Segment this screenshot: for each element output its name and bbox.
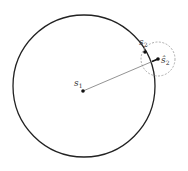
- label-s1: s1: [74, 78, 82, 89]
- point-s2hat: [156, 57, 160, 61]
- diagram-svg: s1s2ŝ2: [0, 0, 188, 171]
- segment-s1-s2hat: [83, 59, 158, 91]
- label-s2: s2: [139, 37, 148, 48]
- point-s2: [143, 50, 147, 54]
- main-circle: [13, 15, 155, 157]
- diagram-canvas: s1s2ŝ2: [0, 0, 188, 171]
- point-s1: [81, 89, 85, 93]
- label-s2hat: ŝ2: [161, 55, 170, 66]
